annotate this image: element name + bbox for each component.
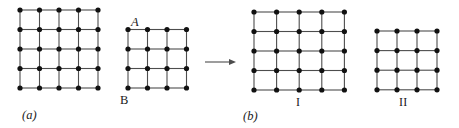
- lattice-node: [394, 87, 399, 92]
- lattice-node: [76, 7, 81, 12]
- lattice-node: [95, 46, 100, 51]
- lattice-node: [76, 46, 81, 51]
- lattice-node: [164, 27, 169, 32]
- lattice-node: [297, 48, 302, 53]
- part-label-two: II: [399, 96, 407, 108]
- graph-a-edges: [20, 10, 187, 88]
- node-label-a: A: [131, 16, 139, 29]
- lattice-node: [145, 85, 150, 90]
- panel-caption-a: (a): [22, 109, 37, 122]
- lattice-node: [374, 28, 379, 33]
- lattice-node: [17, 7, 22, 12]
- lattice-node: [342, 48, 347, 53]
- lattice-node: [37, 85, 42, 90]
- lattice-node: [319, 29, 324, 34]
- lattice-node: [434, 48, 439, 53]
- lattice-node: [56, 85, 61, 90]
- lattice-node: [414, 68, 419, 73]
- arrow-head: [229, 59, 236, 65]
- lattice-node: [145, 66, 150, 71]
- lattice-node: [56, 7, 61, 12]
- lattice-node: [434, 68, 439, 73]
- lattice-node: [125, 27, 130, 32]
- lattice-node: [56, 27, 61, 32]
- lattice-node: [164, 85, 169, 90]
- lattice-node: [76, 27, 81, 32]
- lattice-node: [274, 9, 279, 14]
- lattice-node: [274, 29, 279, 34]
- lattice-node: [17, 85, 22, 90]
- lattice-node: [76, 66, 81, 71]
- panel-caption-b: (b): [243, 110, 258, 123]
- lattice-node: [297, 9, 302, 14]
- right-arrow-icon: [205, 59, 236, 65]
- lattice-node: [56, 46, 61, 51]
- lattice-node: [342, 9, 347, 14]
- figure-container: A B (a) I II (b): [0, 0, 459, 128]
- lattice-node: [145, 46, 150, 51]
- lattice-node: [297, 68, 302, 73]
- lattice-node: [342, 29, 347, 34]
- lattice-node: [374, 48, 379, 53]
- lattice-node: [125, 46, 130, 51]
- lattice-node: [145, 27, 150, 32]
- lattice-node: [374, 87, 379, 92]
- lattice-node: [37, 46, 42, 51]
- lattice-node: [297, 29, 302, 34]
- lattice-node: [164, 46, 169, 51]
- lattice-node: [434, 87, 439, 92]
- lattice-node: [125, 66, 130, 71]
- lattice-node: [184, 27, 189, 32]
- lattice-node: [184, 85, 189, 90]
- lattice-node: [17, 66, 22, 71]
- lattice-node: [251, 68, 256, 73]
- lattice-node: [17, 46, 22, 51]
- lattice-node: [319, 48, 324, 53]
- lattice-node: [319, 9, 324, 14]
- lattice-node: [76, 85, 81, 90]
- lattice-node: [184, 46, 189, 51]
- lattice-node: [394, 28, 399, 33]
- lattice-node: [319, 68, 324, 73]
- lattice-figure-svg: [0, 0, 459, 128]
- lattice-node: [95, 7, 100, 12]
- lattice-node: [297, 87, 302, 92]
- lattice-node: [434, 28, 439, 33]
- lattice-node: [274, 68, 279, 73]
- lattice-node: [414, 48, 419, 53]
- graph-part-two-edges: [377, 31, 437, 90]
- lattice-node: [414, 28, 419, 33]
- lattice-node: [274, 87, 279, 92]
- lattice-node: [394, 68, 399, 73]
- lattice-node: [37, 7, 42, 12]
- lattice-node: [95, 27, 100, 32]
- lattice-node: [95, 66, 100, 71]
- lattice-node: [37, 27, 42, 32]
- part-label-one: I: [296, 96, 300, 108]
- lattice-node: [251, 48, 256, 53]
- lattice-node: [125, 85, 130, 90]
- lattice-node: [37, 66, 42, 71]
- lattice-node: [56, 66, 61, 71]
- graph-part-two-nodes: [374, 28, 439, 92]
- lattice-node: [251, 29, 256, 34]
- lattice-node: [394, 48, 399, 53]
- lattice-node: [319, 87, 324, 92]
- lattice-node: [251, 9, 256, 14]
- lattice-node: [342, 87, 347, 92]
- lattice-node: [17, 27, 22, 32]
- lattice-node: [342, 68, 347, 73]
- lattice-node: [414, 87, 419, 92]
- lattice-node: [251, 87, 256, 92]
- node-label-b: B: [120, 94, 128, 107]
- lattice-node: [184, 66, 189, 71]
- lattice-node: [274, 48, 279, 53]
- lattice-node: [95, 85, 100, 90]
- lattice-node: [164, 66, 169, 71]
- lattice-node: [374, 68, 379, 73]
